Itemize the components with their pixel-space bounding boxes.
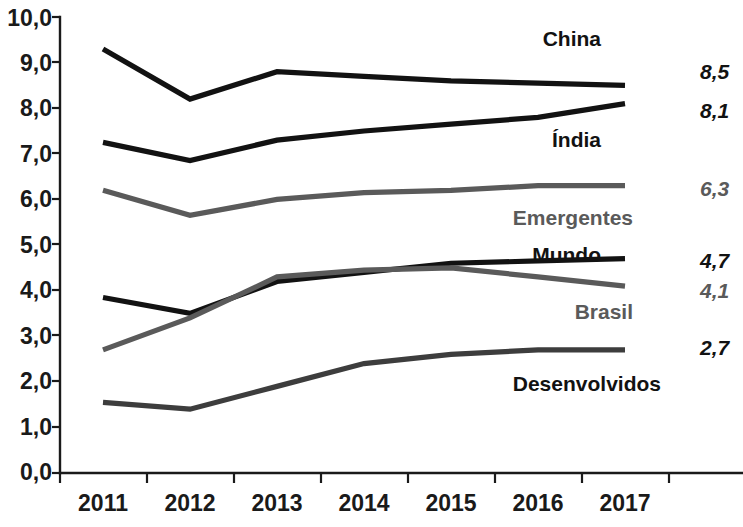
series-value-desenvolvidos: 2,7 [699, 336, 731, 359]
line-chart: 10,0 9,0 8,0 7,0 6,0 5,0 4,0 3,0 2,0 1,0… [0, 0, 743, 527]
x-tick-label-2012: 2012 [164, 490, 215, 516]
y-tick-label-8: 8,0 [20, 95, 52, 121]
series-value-india: 8,1 [700, 99, 729, 122]
series-line-china [103, 49, 625, 99]
y-tick-label-1: 1,0 [20, 414, 52, 440]
y-tick-label-10: 10,0 [7, 5, 52, 31]
series-label-mundo: Mundo [532, 243, 601, 266]
y-tick-label-2: 2,0 [20, 368, 52, 394]
x-tick-label-2016: 2016 [512, 490, 563, 516]
series-value-china: 8,5 [700, 60, 730, 83]
x-tick-label-2014: 2014 [338, 490, 389, 516]
series-line-brasil [103, 268, 625, 350]
series-line-india [103, 104, 625, 161]
y-tick-label-5: 5,0 [20, 232, 52, 258]
x-tick-label-2017: 2017 [599, 490, 650, 516]
series-value-brasil: 4,1 [699, 279, 729, 302]
x-tick-label-2015: 2015 [425, 490, 476, 516]
y-tick-label-0: 0,0 [20, 459, 52, 485]
series-layer [103, 49, 625, 409]
y-tick-label-7: 7,0 [20, 141, 52, 167]
series-label-desenvolvidos: Desenvolvidos [513, 372, 661, 395]
x-tick-marks [60, 473, 669, 483]
series-label-brasil: Brasil [575, 300, 633, 323]
y-tick-label-6: 6,0 [20, 186, 52, 212]
series-label-india: Índia [552, 128, 601, 151]
series-label-emergentes: Emergentes [513, 206, 633, 229]
series-value-emergentes: 6,3 [700, 177, 730, 200]
series-line-mundo [103, 259, 625, 314]
y-tick-label-9: 9,0 [20, 50, 52, 76]
series-value-mundo: 4,7 [699, 249, 731, 272]
series-label-china: China [543, 27, 602, 50]
chart-canvas: 10,0 9,0 8,0 7,0 6,0 5,0 4,0 3,0 2,0 1,0… [0, 0, 743, 527]
x-tick-label-2013: 2013 [251, 490, 302, 516]
x-tick-label-2011: 2011 [78, 490, 128, 516]
y-tick-label-3: 3,0 [20, 323, 52, 349]
y-tick-label-4: 4,0 [20, 277, 52, 303]
